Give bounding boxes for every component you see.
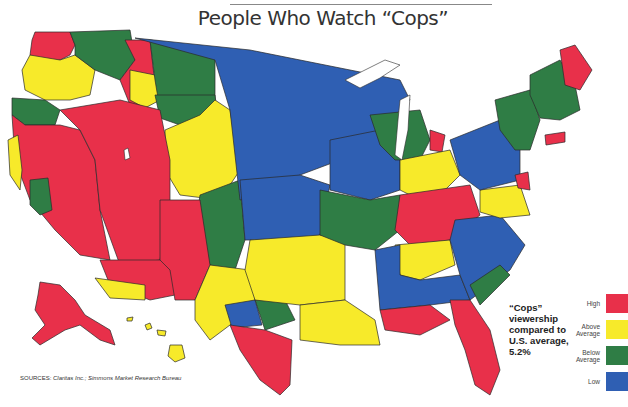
- note-line: 5.2%: [509, 346, 569, 357]
- sources-prefix: SOURCES:: [20, 375, 51, 381]
- sources-credit: SOURCES: Claritas Inc.; Simmons Market R…: [20, 375, 181, 381]
- legend-label: Below Average: [566, 349, 600, 363]
- region[interactable]: [230, 325, 292, 395]
- region[interactable]: [560, 45, 592, 90]
- legend-swatch-below-average: [606, 346, 628, 365]
- region[interactable]: [300, 300, 380, 345]
- legend-item-above-average: Above Average: [566, 320, 628, 339]
- sources-text: Claritas Inc.; Simmons Market Research B…: [53, 375, 181, 381]
- legend-swatch-low: [606, 372, 628, 391]
- region[interactable]: [32, 282, 115, 345]
- note-line: compared to: [509, 324, 569, 335]
- legend-label: Above Average: [566, 323, 600, 337]
- legend-label: Low: [566, 378, 600, 385]
- region[interactable]: [157, 330, 166, 336]
- region[interactable]: [240, 175, 330, 240]
- region[interactable]: [395, 240, 455, 280]
- note-line: U.S. average,: [509, 335, 569, 346]
- legend-item-below-average: Below Average: [566, 346, 628, 365]
- legend-swatch-high: [606, 294, 628, 313]
- legend-item-low: Low: [566, 372, 628, 391]
- region[interactable]: [255, 300, 295, 330]
- region[interactable]: [480, 185, 530, 218]
- region[interactable]: [380, 305, 450, 335]
- region[interactable]: [225, 300, 262, 328]
- region[interactable]: [127, 317, 133, 321]
- legend-item-high: High: [566, 294, 628, 313]
- region[interactable]: [30, 178, 52, 215]
- viewership-note: “Cops” viewership compared to U.S. avera…: [509, 302, 569, 357]
- region[interactable]: [430, 130, 445, 152]
- region[interactable]: [145, 323, 152, 330]
- legend-swatch-above-average: [606, 320, 628, 339]
- region[interactable]: [545, 132, 565, 145]
- region[interactable]: [245, 235, 345, 305]
- note-line: “Cops”: [509, 302, 569, 313]
- region[interactable]: [450, 300, 500, 395]
- note-line: viewership: [509, 313, 569, 324]
- legend-label: High: [566, 300, 600, 307]
- legend: High Above Average Below Average Low: [566, 294, 628, 398]
- region[interactable]: [168, 345, 185, 362]
